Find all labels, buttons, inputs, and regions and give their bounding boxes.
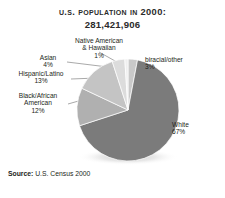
- slice-value-native-american: 1%: [63, 52, 135, 59]
- source-line: Source: U.S. Census 2000: [8, 170, 90, 177]
- source-text: U.S. Census 2000: [33, 170, 90, 177]
- slice-label-native-american-line2: & Hawaiian: [82, 44, 115, 51]
- slice-value-hispanic-latino: 13%: [8, 77, 74, 84]
- pie-chart-figure: U.S. Population in 2000: 281,421,906: [0, 0, 225, 198]
- slice-label-asian-name: Asian: [40, 54, 57, 61]
- slice-label-hispanic-latino-name: Hispanic/Latino: [18, 70, 63, 77]
- plot-area: Native American & Hawaiian 1% Asian 4% H…: [0, 0, 225, 168]
- slice-label-white-name: White: [172, 121, 189, 128]
- slice-label-biracial-other: biracial/other 3%: [145, 56, 217, 71]
- slice-value-biracial-other: 3%: [145, 63, 217, 70]
- slice-label-biracial-other-name: biracial/other: [145, 56, 183, 63]
- slice-label-white: White 67%: [172, 121, 218, 136]
- slice-label-native-american-line1: Native American: [75, 37, 123, 44]
- slice-label-black-african-american-line1: Black/African: [19, 92, 57, 99]
- slice-label-hispanic-latino: Hispanic/Latino 13%: [8, 70, 74, 85]
- slice-value-white: 67%: [172, 128, 218, 135]
- slice-label-black-african-american-line2: American: [24, 99, 52, 106]
- pie-slices: [77, 59, 179, 161]
- slice-value-asian: 4%: [26, 61, 70, 68]
- slice-label-black-african-american: Black/African American 12%: [4, 92, 72, 114]
- slice-label-native-american: Native American & Hawaiian 1%: [63, 37, 135, 59]
- source-label: Source:: [8, 170, 33, 177]
- slice-value-black-african-american: 12%: [4, 107, 72, 114]
- slice-label-asian: Asian 4%: [26, 54, 70, 69]
